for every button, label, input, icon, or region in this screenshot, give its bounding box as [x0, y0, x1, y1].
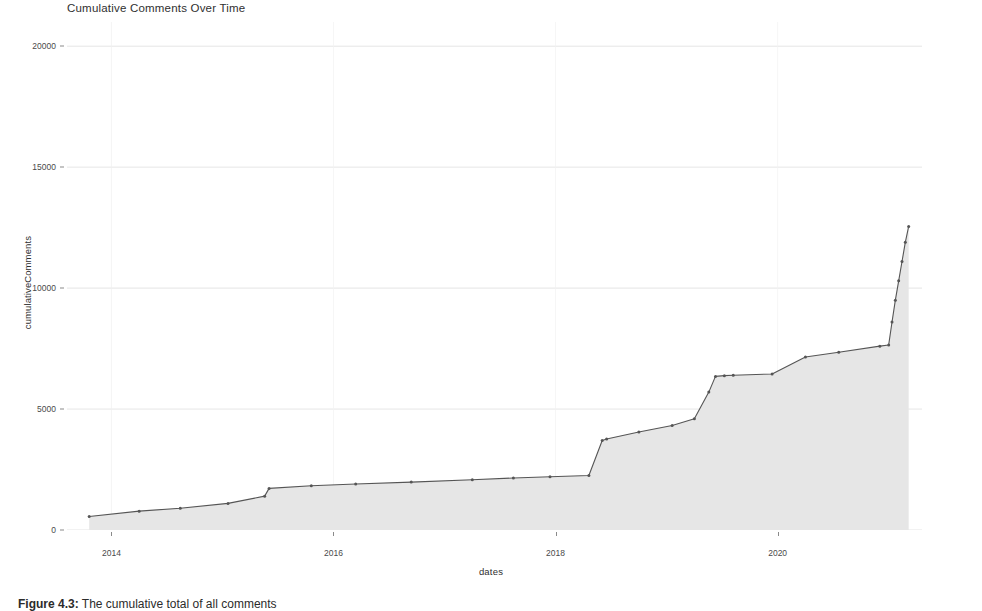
data-point-marker [138, 510, 141, 513]
data-point-marker [637, 431, 640, 434]
x-axis-tick-label: 2020 [768, 548, 787, 558]
data-point-marker [891, 320, 894, 323]
y-axis-tick-mark [60, 46, 64, 47]
data-point-marker [601, 439, 604, 442]
data-point-marker [587, 474, 590, 477]
plot-panel [67, 22, 922, 530]
plot-area [67, 22, 922, 530]
x-axis-tick-mark [333, 532, 334, 536]
data-point-marker [671, 424, 674, 427]
data-point-marker [714, 375, 717, 378]
series-layer [88, 225, 910, 530]
y-axis-tick-mark [60, 167, 64, 168]
data-point-marker [723, 374, 726, 377]
x-axis-tick-label: 2018 [546, 548, 565, 558]
data-point-marker [837, 351, 840, 354]
figure-caption-label: Figure 4.3: [18, 597, 79, 611]
data-point-marker [887, 343, 890, 346]
data-point-marker [263, 495, 266, 498]
figure-caption-text: The cumulative total of all comments [82, 597, 277, 611]
data-point-marker [512, 476, 515, 479]
x-axis-tick-label: 2016 [324, 548, 343, 558]
data-point-marker [227, 502, 230, 505]
data-point-marker [88, 515, 91, 518]
data-point-marker [693, 417, 696, 420]
data-point-marker [894, 299, 897, 302]
data-point-marker [907, 225, 910, 228]
figure-caption: Figure 4.3: The cumulative total of all … [18, 597, 277, 611]
data-point-marker [897, 279, 900, 282]
data-point-marker [354, 483, 357, 486]
series-area-fill [89, 226, 908, 530]
data-point-marker [268, 487, 271, 490]
x-axis-title: dates [0, 566, 982, 577]
data-point-marker [904, 241, 907, 244]
data-point-marker [310, 484, 313, 487]
x-axis-tick-mark [778, 532, 779, 536]
data-point-marker [771, 372, 774, 375]
data-point-marker [878, 345, 881, 348]
data-point-marker [410, 481, 413, 484]
x-axis-tick-mark [556, 532, 557, 536]
data-point-marker [471, 478, 474, 481]
data-point-marker [732, 374, 735, 377]
x-axis-tick-mark [111, 532, 112, 536]
data-point-marker [707, 391, 710, 394]
data-point-marker [179, 507, 182, 510]
y-axis-tick-mark [60, 409, 64, 410]
data-point-marker [804, 356, 807, 359]
data-point-marker [549, 475, 552, 478]
y-axis-tick-mark [60, 530, 64, 531]
data-point-marker [605, 438, 608, 441]
x-axis-tick-label: 2014 [102, 548, 121, 558]
data-point-marker [901, 260, 904, 263]
y-axis-tick-mark [60, 288, 64, 289]
